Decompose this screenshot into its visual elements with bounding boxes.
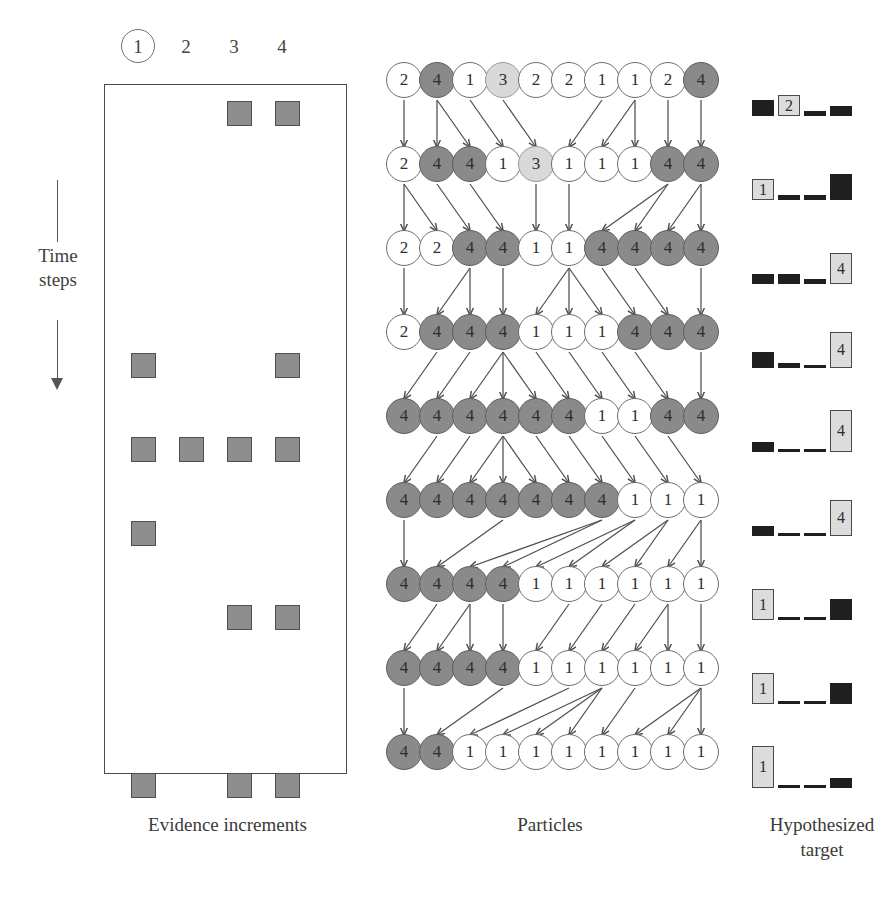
particle: 2 (419, 230, 455, 272)
particle-circle: 1 (584, 398, 620, 434)
particle-circle: 3 (518, 146, 554, 182)
particle: 4 (551, 482, 587, 524)
resampling-arrow (503, 520, 602, 567)
histogram-bar (778, 785, 800, 788)
hypothesis-histogram: 1 (752, 728, 872, 788)
hypothesis-histogram: 1 (752, 644, 872, 704)
histogram-bar-label: 1 (753, 597, 773, 613)
particle-row: 4411111111 (386, 734, 716, 776)
particle-circle: 4 (551, 482, 587, 518)
histogram-bar-label: 1 (753, 759, 773, 775)
particle: 4 (386, 398, 422, 440)
resampling-arrow (569, 352, 602, 399)
particle: 4 (452, 650, 488, 692)
particle: 2 (386, 230, 422, 272)
resampling-arrow (536, 268, 569, 315)
particle-circle: 4 (419, 314, 455, 350)
histogram-bar (778, 449, 800, 452)
evidence-increment-square (275, 353, 300, 378)
resampling-arrow (470, 436, 503, 483)
evidence-increment-square (131, 773, 156, 798)
evidence-increment-square (131, 353, 156, 378)
particle: 4 (485, 650, 521, 692)
particle: 1 (551, 650, 587, 692)
particle: 4 (452, 146, 488, 188)
particle-circle: 1 (584, 650, 620, 686)
histogram-bar-selected: 1 (752, 673, 774, 704)
particle-circle: 1 (617, 482, 653, 518)
hypothesis-histogram: 1 (752, 140, 872, 200)
resampling-arrow (602, 268, 635, 315)
particle-circle: 4 (485, 650, 521, 686)
evidence-increment-square (275, 101, 300, 126)
resampling-arrow (668, 184, 701, 231)
particle-circle: 1 (518, 314, 554, 350)
particle: 1 (452, 734, 488, 776)
resampling-arrow (404, 604, 437, 651)
caption-evidence-increments: Evidence increments (105, 812, 350, 837)
particle: 1 (650, 650, 686, 692)
time-axis-line-upper (57, 180, 58, 242)
particle-circle: 4 (419, 566, 455, 602)
resampling-arrow (602, 688, 635, 735)
histogram-bar-selected: 1 (752, 746, 774, 788)
particle: 2 (386, 314, 422, 356)
resampling-arrow (668, 436, 701, 483)
particle-circle: 1 (617, 566, 653, 602)
particle-circle: 1 (551, 734, 587, 770)
particle-circle: 2 (518, 62, 554, 98)
resampling-arrow (635, 604, 668, 651)
column-header-3: 3 (214, 28, 254, 66)
particle-circle: 4 (386, 734, 422, 770)
particle-circle: 4 (419, 62, 455, 98)
particle: 1 (683, 482, 719, 524)
particle: 4 (650, 146, 686, 188)
particle: 4 (419, 146, 455, 188)
resampling-arrow (536, 436, 569, 483)
particle: 4 (650, 398, 686, 440)
particle: 4 (452, 482, 488, 524)
particle: 1 (650, 482, 686, 524)
histogram-bar (804, 533, 826, 536)
particle-circle: 1 (551, 566, 587, 602)
resampling-arrow (569, 520, 635, 567)
particle-circle: 1 (551, 650, 587, 686)
time-axis-line-lower (57, 320, 58, 382)
particle: 2 (650, 62, 686, 104)
histogram-bar (804, 617, 826, 620)
particle: 1 (584, 314, 620, 356)
particle-row: 2413221124 (386, 62, 716, 104)
particle-circle: 1 (551, 314, 587, 350)
particle: 4 (419, 314, 455, 356)
particle: 1 (518, 566, 554, 608)
column-header-1: 1 (118, 28, 158, 66)
histogram-bar-selected: 4 (830, 500, 852, 536)
particle: 1 (485, 146, 521, 188)
particle-circle: 4 (518, 482, 554, 518)
particle-circle: 4 (683, 62, 719, 98)
histogram-bar (830, 174, 852, 200)
particle: 1 (617, 398, 653, 440)
resampling-arrow (470, 100, 503, 147)
particle: 4 (419, 734, 455, 776)
particle-circle: 2 (386, 314, 422, 350)
particle-row: 4444441144 (386, 398, 716, 440)
particle-row: 2444111444 (386, 314, 716, 356)
particle-circle: 1 (650, 482, 686, 518)
histogram-bar (778, 195, 800, 200)
resampling-arrow (668, 688, 701, 735)
histogram-bar (752, 526, 774, 536)
histogram-bar (752, 442, 774, 452)
particle-circle: 1 (683, 566, 719, 602)
resampling-arrow (404, 352, 437, 399)
particle-circle: 1 (551, 146, 587, 182)
particle-row: 4444444111 (386, 482, 716, 524)
particle-circle: 1 (617, 146, 653, 182)
particle: 4 (584, 482, 620, 524)
particle: 4 (452, 566, 488, 608)
particle: 4 (386, 482, 422, 524)
particle-row: 2244114444 (386, 230, 716, 272)
particle-circle: 4 (584, 230, 620, 266)
particle: 4 (419, 482, 455, 524)
resampling-arrow (470, 352, 503, 399)
